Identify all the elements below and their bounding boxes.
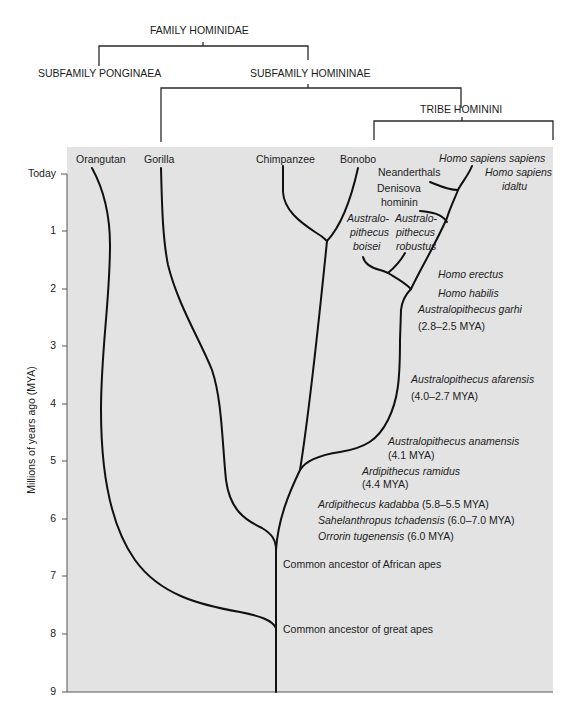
label-denisova-2: hominin bbox=[381, 196, 418, 209]
chimpanzee-lineage bbox=[283, 166, 327, 241]
label-homo-habilis: Homo habilis bbox=[438, 287, 499, 300]
subfamily-homininae-label: SUBFAMILY HOMININAE bbox=[250, 67, 370, 80]
family-bracket bbox=[99, 46, 308, 66]
label-garhi: Australopithecus garhi bbox=[418, 303, 522, 316]
tick-8: 8 bbox=[16, 627, 56, 639]
orrorin-date: (6.0 MYA) bbox=[404, 530, 453, 542]
label-boisei-1: Australo- bbox=[347, 212, 389, 225]
label-common-ancestor-african-apes: Common ancestor of African apes bbox=[283, 558, 441, 571]
label-kadabba: Ardipithecus kadabba (5.8–5.5 MYA) bbox=[318, 498, 489, 511]
tick-2: 2 bbox=[16, 282, 56, 294]
label-homo-sapiens-idaltu-1: Homo sapiens bbox=[485, 166, 552, 179]
label-bonobo: Bonobo bbox=[340, 153, 376, 166]
label-anamensis: Australopithecus anamensis bbox=[388, 435, 519, 448]
sahelanthropus-name: Sahelanthropus tchadensis bbox=[318, 514, 445, 526]
label-boisei-3: boisei bbox=[353, 240, 380, 253]
tick-9: 9 bbox=[16, 685, 56, 697]
tick-6: 6 bbox=[16, 512, 56, 524]
tick-today: Today bbox=[16, 167, 56, 179]
tribe-bracket bbox=[374, 121, 553, 140]
gorilla-lineage bbox=[161, 168, 276, 550]
phylogeny-diagram: FAMILY HOMINIDAE SUBFAMILY PONGINAEA SUB… bbox=[0, 0, 579, 712]
label-ramidus: Ardipithecus ramidus bbox=[362, 465, 460, 478]
tick-3: 3 bbox=[16, 339, 56, 351]
label-boisei-2: pithecus bbox=[350, 226, 389, 239]
label-denisova-1: Denisova bbox=[377, 182, 421, 195]
y-axis-label: Millions of years ago (MYA) bbox=[25, 365, 37, 495]
y-axis bbox=[61, 174, 553, 692]
label-gorilla: Gorilla bbox=[144, 153, 174, 166]
tribe-hominini-label: TRIBE HOMININI bbox=[420, 103, 502, 116]
label-neanderthals: Neanderthals bbox=[378, 166, 440, 179]
orrorin-name: Orrorin tugenensis bbox=[318, 530, 404, 542]
neanderthal-branch bbox=[430, 182, 458, 190]
label-robustus-2: pithecus bbox=[396, 226, 435, 239]
label-sahelanthropus: Sahelanthropus tchadensis (6.0–7.0 MYA) bbox=[318, 514, 515, 527]
label-afarensis-date: (4.0–2.7 MYA) bbox=[411, 390, 478, 403]
label-robustus-1: Australo- bbox=[395, 212, 437, 225]
kadabba-name: Ardipithecus kadabba bbox=[318, 498, 419, 510]
label-ramidus-date: (4.4 MYA) bbox=[362, 478, 408, 491]
label-anamensis-date: (4.1 MYA) bbox=[388, 449, 434, 462]
orangutan-lineage bbox=[92, 168, 276, 628]
label-robustus-3: robustus bbox=[396, 240, 436, 253]
label-homo-sapiens-sapiens: Homo sapiens sapiens bbox=[439, 152, 545, 165]
label-homo-erectus: Homo erectus bbox=[438, 268, 503, 281]
label-chimpanzee: Chimpanzee bbox=[256, 153, 315, 166]
homininae-bracket bbox=[161, 88, 461, 142]
sahelanthropus-date: (6.0–7.0 MYA) bbox=[445, 514, 515, 526]
tick-7: 7 bbox=[16, 569, 56, 581]
label-orrorin: Orrorin tugenensis (6.0 MYA) bbox=[318, 530, 454, 543]
kadabba-date: (5.8–5.5 MYA) bbox=[419, 498, 489, 510]
tick-1: 1 bbox=[16, 224, 56, 236]
family-label: FAMILY HOMINIDAE bbox=[150, 24, 249, 37]
paranthropus-lineage bbox=[388, 273, 411, 289]
label-orangutan: Orangutan bbox=[76, 153, 126, 166]
label-common-ancestor-great-apes: Common ancestor of great apes bbox=[283, 623, 433, 636]
robustus-branch bbox=[388, 253, 405, 273]
subfamily-ponginaea-label: SUBFAMILY PONGINAEA bbox=[38, 67, 161, 80]
label-afarensis: Australopithecus afarensis bbox=[411, 373, 534, 386]
label-homo-sapiens-idaltu-2: idaltu bbox=[502, 180, 527, 193]
boisei-branch bbox=[363, 257, 388, 273]
label-garhi-date: (2.8–2.5 MYA) bbox=[418, 320, 485, 333]
